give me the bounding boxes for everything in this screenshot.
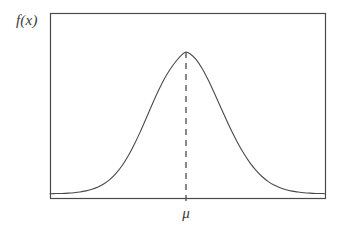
mean-tick-label: μ xyxy=(0,205,341,222)
mu-glyph: μ xyxy=(182,205,190,221)
density-curve xyxy=(50,52,325,194)
plot-frame xyxy=(51,14,326,199)
y-axis-label: f(x) xyxy=(16,12,38,29)
normal-distribution-figure: f(x) μ xyxy=(0,0,341,231)
plot-canvas xyxy=(0,0,341,231)
